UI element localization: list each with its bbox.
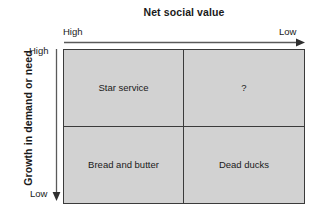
quadrant-bottom-left-label: Bread and butter <box>88 159 159 170</box>
x-axis-left-label: High <box>63 26 83 37</box>
quadrant-bottom-right-label: Dead ducks <box>219 159 269 170</box>
quadrant-grid: Star service ? Bread and butter Dead duc… <box>63 49 305 204</box>
quadrant-top-right-label: ? <box>241 82 246 93</box>
x-axis-right-label: Low <box>279 26 296 37</box>
y-axis-title: Growth in demand or need <box>22 33 34 203</box>
y-axis-top-label: High <box>29 45 49 56</box>
arrow-right-icon <box>63 38 305 47</box>
y-axis-bottom-label: Low <box>30 188 47 199</box>
quadrant-bottom-left[interactable]: Bread and butter <box>64 127 184 204</box>
quadrant-top-right[interactable]: ? <box>184 50 304 127</box>
quadrant-top-left[interactable]: Star service <box>64 50 184 127</box>
matrix-diagram: Net social value High Low Growth in dema… <box>0 0 325 215</box>
quadrant-top-left-label: Star service <box>98 82 148 93</box>
arrow-down-icon <box>51 49 62 201</box>
quadrant-bottom-right[interactable]: Dead ducks <box>184 127 304 204</box>
page-title: Net social value <box>63 6 305 18</box>
